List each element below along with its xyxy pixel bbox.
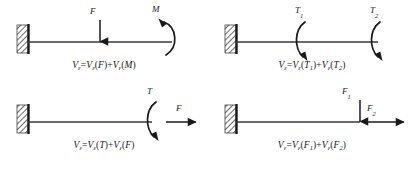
eq3-t2-sub: ε (119, 144, 122, 151)
label-force-F2-base: F (367, 103, 373, 113)
equation-panel-2: Vε=Vε(T1)+Vε(T2) (208, 60, 416, 70)
eq4-t2-sub: ε (328, 144, 331, 151)
equation-panel-1: Vε=Vε(F)+Vε(M) (0, 60, 208, 70)
label-force-F1-base: F (342, 86, 348, 96)
eq4-t2-V: V (322, 140, 328, 150)
equation-panel-4: Vε=Vε(F1)+Vε(F2) (208, 140, 416, 150)
eq2-t2-sub: ε (328, 64, 331, 71)
eq3-t1-sub: ε (93, 144, 96, 151)
eq2-t2-rparen: ) (342, 60, 345, 70)
eq3-t2-rparen: ) (131, 140, 134, 150)
eq4-t2-arg-sub: 2 (340, 144, 343, 151)
eq2-lhs-sub: ε (284, 64, 287, 71)
eq2-t1-sub: ε (298, 64, 301, 71)
fixed-support-wall (17, 104, 29, 134)
label-torque-T: T (147, 86, 152, 96)
panel-1-drawing (0, 0, 208, 84)
label-force-F: F (90, 6, 96, 16)
eq4-lhs-V: V (278, 140, 284, 150)
eq4-t1-V: V (292, 140, 298, 150)
eq2-t1-arg: T (304, 60, 309, 70)
panel-force-and-moment: F M Vε=Vε(F)+Vε(M) (0, 0, 208, 84)
eq1-t2-sub: ε (119, 64, 122, 71)
panel-two-torques: T1 T2 Vε=Vε(T1)+Vε(T2) (208, 0, 416, 84)
equation-panel-3: Vε=Vε(T)+Vε(F) (0, 140, 208, 150)
eq2-t2-V: V (322, 60, 328, 70)
fixed-support-wall (17, 24, 29, 54)
fixed-support-wall (225, 104, 237, 134)
panel-2-drawing (208, 0, 416, 84)
eq1-t2-arg: M (125, 60, 133, 70)
label-force-F1: F1 (342, 86, 351, 98)
panel-torque-and-axial-force: T F Vε=Vε(T)+Vε(F) (0, 84, 208, 168)
eq4-t1-arg: F (304, 140, 310, 150)
eq1-t1-sub: ε (92, 64, 95, 71)
panel-two-forces: F1 F2 Vε=Vε(F1)+Vε(F2) (208, 84, 416, 168)
panel-4-drawing (208, 84, 416, 168)
label-torque-T1: T1 (295, 5, 303, 17)
label-force-F: F (176, 103, 182, 113)
fixed-support-wall (225, 24, 237, 54)
panel-3-drawing (0, 84, 208, 168)
eq2-t2-arg-sub: 2 (339, 64, 342, 71)
label-force-F1-sub: 1 (348, 93, 351, 100)
moment-arc-M-icon (159, 19, 175, 56)
eq2-t1-arg-sub: 1 (310, 64, 313, 71)
label-force-F2: F2 (367, 103, 376, 115)
label-moment-M: M (152, 4, 160, 14)
eq1-t2-V: V (113, 60, 119, 70)
figure-container: F M Vε=Vε(F)+Vε(M) (0, 0, 416, 169)
eq3-lhs-sub: ε (79, 144, 82, 151)
eq1-t2-rparen: ) (133, 60, 136, 70)
eq4-t2-rparen: ) (343, 140, 346, 150)
eq1-lhs-sub: ε (78, 64, 81, 71)
label-torque-T2-sub: 2 (375, 12, 378, 19)
eq4-t2-arg: F (334, 140, 340, 150)
label-force-F2-sub: 2 (373, 110, 376, 117)
label-torque-T1-sub: 1 (300, 12, 303, 19)
eq4-t1-arg-sub: 1 (310, 144, 313, 151)
label-torque-T2: T2 (370, 5, 378, 17)
